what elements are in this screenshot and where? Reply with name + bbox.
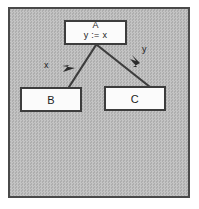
- node-b-label: B: [47, 94, 55, 106]
- node-b[interactable]: B: [20, 87, 82, 112]
- node-a-statement: y := x: [66, 30, 125, 40]
- edge-label-y: y: [142, 45, 147, 54]
- edge-label-x: x: [44, 61, 49, 70]
- node-a-label: A: [66, 20, 125, 30]
- node-a[interactable]: A y := x: [64, 20, 127, 45]
- node-c-label: C: [131, 93, 139, 105]
- node-c[interactable]: C: [104, 86, 166, 111]
- diagram-figure: A y := x B C x y: [0, 0, 199, 209]
